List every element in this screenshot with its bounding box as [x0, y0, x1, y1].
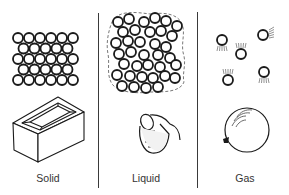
label-solid: Solid [8, 172, 88, 184]
balloon-icon [223, 108, 269, 152]
pouring-jug-icon [138, 112, 180, 153]
brick-icon [13, 97, 84, 162]
liquid-particle-cluster [107, 12, 184, 93]
label-liquid: Liquid [106, 172, 186, 184]
states-of-matter-diagram: Solid Liquid Gas [0, 0, 289, 195]
label-gas: Gas [205, 172, 285, 184]
diagram-canvas [0, 0, 289, 195]
gas-particles [217, 30, 269, 85]
solid-particle-lattice [13, 33, 78, 85]
